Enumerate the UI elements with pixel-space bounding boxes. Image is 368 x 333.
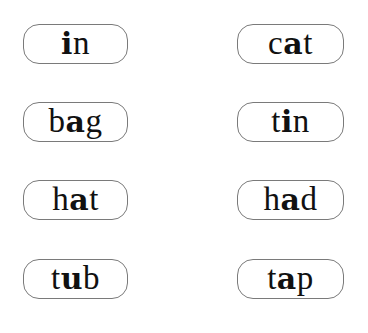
vowel: a (69, 182, 89, 217)
word-cat: cat (268, 27, 313, 60)
word-had: had (264, 183, 318, 216)
word-card-tap: tap (237, 259, 344, 299)
word-card-tub: tub (23, 259, 128, 299)
vowel: a (277, 261, 297, 296)
word-tin: tin (271, 105, 310, 138)
word-card-hat: hat (23, 180, 128, 220)
vowel: i (281, 104, 293, 139)
word-bag: bag (49, 105, 103, 138)
word-hat: hat (52, 183, 99, 216)
word-in: in (61, 27, 90, 60)
word-tap: tap (267, 262, 314, 295)
word-tub: tub (51, 262, 100, 295)
vowel: a (281, 182, 301, 217)
word-card-bag: bag (23, 102, 128, 142)
vowel: u (61, 261, 83, 296)
vowel: i (61, 26, 73, 61)
word-card-tin: tin (237, 102, 344, 142)
vowel: a (66, 104, 86, 139)
word-card-had: had (237, 180, 344, 220)
word-card-in: in (23, 24, 128, 64)
vowel: a (283, 26, 303, 61)
word-card-cat: cat (237, 24, 344, 64)
